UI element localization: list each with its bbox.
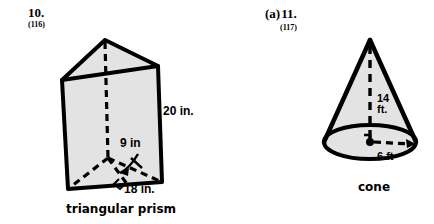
prism-triangle-height-label: 9 in bbox=[120, 136, 141, 150]
prism-height-label: 20 in. bbox=[163, 104, 194, 118]
problem-11-reference: (117) bbox=[280, 24, 297, 32]
problem-11-prefix: (a) bbox=[265, 6, 280, 22]
worksheet-page: 10. (116) 20 in. 9 in 18 in. triangular … bbox=[0, 0, 434, 224]
cone-height-label: 14 ft. bbox=[377, 93, 389, 115]
problem-10-number: 10. bbox=[28, 6, 45, 19]
cone-height-unit: ft. bbox=[377, 104, 389, 115]
problem-10-heading: 10. (116) bbox=[28, 6, 45, 29]
cone-caption: cone bbox=[358, 180, 390, 194]
prism-front-face bbox=[62, 66, 162, 189]
prism-base-label: 18 in. bbox=[124, 182, 155, 196]
problem-11-heading: (a) 11. (117) bbox=[265, 6, 297, 32]
problem-11-number: 11. bbox=[281, 7, 297, 20]
cone-radius-label: 6 ft bbox=[377, 150, 394, 162]
prism-caption: triangular prism bbox=[66, 202, 176, 216]
cone-radius-line bbox=[374, 142, 410, 144]
cone-figure bbox=[312, 34, 428, 174]
problem-10-reference: (116) bbox=[28, 21, 45, 29]
